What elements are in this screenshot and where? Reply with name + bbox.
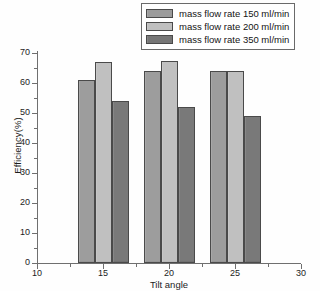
bar-texture (162, 62, 177, 263)
legend-swatch (146, 35, 173, 44)
chart-legend: mass flow rate 150 ml/minmass flow rate … (141, 3, 295, 50)
bar-texture (79, 81, 94, 262)
bar[interactable] (112, 101, 129, 263)
legend-swatch (146, 9, 173, 18)
bar-texture (245, 117, 260, 262)
bar-texture (228, 72, 243, 262)
legend-label: mass flow rate 150 ml/min (179, 8, 289, 19)
legend-swatch-texture (147, 10, 172, 17)
bar-texture (211, 72, 226, 262)
legend-swatch (146, 22, 173, 31)
legend-swatch-texture (147, 23, 172, 30)
legend-label: mass flow rate 200 ml/min (179, 21, 289, 32)
bar-texture (145, 72, 160, 262)
legend-item[interactable]: mass flow rate 200 ml/min (146, 20, 289, 33)
bar-texture (179, 108, 194, 262)
bar[interactable] (95, 62, 112, 263)
bar-texture (96, 63, 111, 262)
bar[interactable] (210, 71, 227, 263)
legend-swatch-texture (147, 36, 172, 43)
legend-item[interactable]: mass flow rate 350 ml/min (146, 33, 289, 46)
bar[interactable] (244, 116, 261, 263)
bar-texture (113, 102, 128, 262)
bar[interactable] (161, 61, 178, 264)
legend-item[interactable]: mass flow rate 150 ml/min (146, 7, 289, 20)
bar[interactable] (227, 71, 244, 263)
bar[interactable] (178, 107, 195, 263)
bar[interactable] (144, 71, 161, 263)
bar[interactable] (78, 80, 95, 263)
chart-figure: 010203040506070 1015202530 Efficiency(%)… (0, 0, 320, 291)
legend-label: mass flow rate 350 ml/min (179, 34, 289, 45)
